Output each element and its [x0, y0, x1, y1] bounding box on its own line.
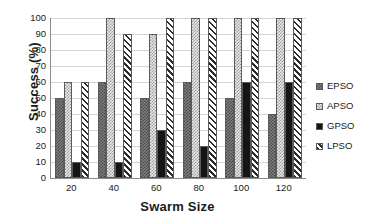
chart-legend: EPSOAPSOGPSOLPSO: [316, 76, 370, 156]
bar-group-40: [94, 18, 137, 178]
legend-item-lpso[interactable]: LPSO: [316, 136, 370, 156]
bar-epso-120: [268, 114, 277, 178]
checker-dark-swatch: [316, 83, 323, 90]
y-axis-tick-labels: 0102030405060708090100: [14, 18, 46, 178]
y-axis-tick-40: 40: [14, 109, 46, 119]
bar-lpso-60: [166, 18, 175, 178]
x-axis-tick-60: 60: [151, 183, 162, 193]
bar-apso-20: [64, 82, 73, 178]
x-axis-title: Swarm Size: [50, 199, 305, 214]
y-axis-tick-70: 70: [14, 61, 46, 71]
bar-gpso-100: [242, 82, 251, 178]
solid-black-swatch: [316, 123, 323, 130]
y-axis-tick-30: 30: [14, 125, 46, 135]
legend-label-gpso: GPSO: [327, 121, 354, 131]
y-axis-tick-20: 20: [14, 141, 46, 151]
bar-gpso-120: [285, 82, 294, 178]
bar-lpso-80: [208, 18, 217, 178]
bar-apso-120: [276, 18, 285, 178]
y-axis-tick-80: 80: [14, 45, 46, 55]
bar-epso-80: [183, 82, 192, 178]
bar-gpso-20: [72, 162, 81, 178]
bar-gpso-40: [115, 162, 124, 178]
legend-item-gpso[interactable]: GPSO: [316, 116, 370, 136]
legend-label-lpso: LPSO: [327, 141, 352, 151]
checker-light-swatch: [316, 103, 323, 110]
bar-gpso-60: [157, 130, 166, 178]
bar-group-120: [264, 18, 307, 178]
bar-epso-20: [55, 98, 64, 178]
bar-series-container: [51, 18, 306, 178]
bar-lpso-120: [293, 18, 302, 178]
x-axis-tick-40: 40: [108, 183, 119, 193]
bar-epso-40: [98, 82, 107, 178]
x-axis-tick-20: 20: [66, 183, 77, 193]
legend-label-apso: APSO: [327, 101, 353, 111]
legend-label-epso: EPSO: [327, 81, 353, 91]
bar-apso-60: [149, 34, 158, 178]
bar-epso-60: [140, 98, 149, 178]
bar-group-80: [179, 18, 222, 178]
x-axis-tick-80: 80: [193, 183, 204, 193]
bar-apso-80: [191, 18, 200, 178]
bar-group-60: [136, 18, 179, 178]
bar-apso-100: [234, 18, 243, 178]
x-axis-tick-100: 100: [233, 183, 249, 193]
y-axis-tick-90: 90: [14, 29, 46, 39]
diagonal-hatch-swatch: [316, 143, 323, 150]
y-axis-tick-50: 50: [14, 93, 46, 103]
bar-apso-40: [106, 18, 115, 178]
bar-group-100: [221, 18, 264, 178]
bar-group-20: [51, 18, 94, 178]
bar-gpso-80: [200, 146, 209, 178]
bar-lpso-100: [251, 18, 260, 178]
bar-epso-100: [225, 98, 234, 178]
bar-lpso-20: [81, 82, 90, 178]
x-axis-tick-120: 120: [276, 183, 292, 193]
bar-lpso-40: [123, 34, 132, 178]
legend-item-epso[interactable]: EPSO: [316, 76, 370, 96]
y-axis-tick-60: 60: [14, 77, 46, 87]
y-axis-tick-100: 100: [14, 13, 46, 23]
y-axis-tick-0: 0: [14, 173, 46, 183]
legend-item-apso[interactable]: APSO: [316, 96, 370, 116]
plot-area: [50, 18, 306, 179]
bar-chart-figure: Success (%) 0102030405060708090100 20406…: [0, 0, 371, 223]
y-axis-tick-10: 10: [14, 157, 46, 167]
x-axis-tick-labels: 20406080100120: [50, 183, 305, 197]
